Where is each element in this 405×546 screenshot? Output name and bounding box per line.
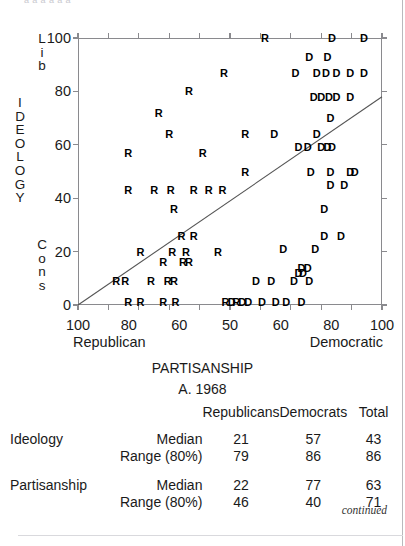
data-point-r: R bbox=[219, 185, 227, 196]
data-point-r: R bbox=[199, 147, 207, 158]
x-tick-label: 100 bbox=[370, 317, 394, 333]
data-point-d: D bbox=[270, 129, 278, 140]
data-point-d: D bbox=[320, 230, 328, 241]
data-point-d: D bbox=[310, 91, 318, 102]
data-point-d: D bbox=[313, 129, 321, 140]
y-tick bbox=[73, 91, 78, 92]
x-tick-top bbox=[290, 33, 291, 38]
y-tick-label: 100 bbox=[47, 30, 71, 46]
x-tick-label: 100 bbox=[66, 317, 90, 333]
data-point-d: D bbox=[279, 243, 287, 254]
page-bottom-rule bbox=[18, 535, 403, 536]
cell-democrats: 57 bbox=[280, 431, 348, 448]
y-tick-label: 60 bbox=[55, 137, 71, 153]
data-point-d: D bbox=[307, 166, 315, 177]
data-point-d: D bbox=[290, 275, 298, 286]
data-point-d: D bbox=[323, 51, 331, 62]
data-point-d: D bbox=[328, 33, 336, 44]
data-point-d: D bbox=[252, 275, 260, 286]
data-point-d: D bbox=[346, 91, 354, 102]
data-point-d: D bbox=[311, 243, 319, 254]
cell-total: 43 bbox=[347, 431, 400, 448]
x-tick bbox=[169, 305, 170, 310]
y-tick-label: 80 bbox=[55, 83, 71, 99]
data-point-r: R bbox=[165, 129, 173, 140]
data-point-r: R bbox=[124, 147, 132, 158]
data-point-d: D bbox=[304, 142, 312, 153]
y-tick-right bbox=[382, 91, 387, 92]
data-point-d: D bbox=[291, 67, 299, 78]
data-point-d: D bbox=[340, 179, 348, 190]
data-point-r: R bbox=[121, 275, 129, 286]
x-tick-label: 80 bbox=[121, 317, 137, 333]
data-point-r: R bbox=[214, 246, 222, 257]
data-point-r: R bbox=[167, 185, 175, 196]
y-axis-bottom-anchor: Cons bbox=[34, 238, 50, 292]
x-tick bbox=[77, 305, 78, 310]
data-point-d: D bbox=[325, 91, 333, 102]
row-group-label bbox=[10, 448, 112, 465]
y-tick-right bbox=[382, 304, 387, 305]
data-point-r: R bbox=[241, 166, 249, 177]
data-point-r: R bbox=[124, 297, 132, 308]
x-tick-top bbox=[321, 33, 322, 38]
data-point-d: D bbox=[295, 142, 303, 153]
data-point-d: D bbox=[360, 33, 368, 44]
header-blank-stat bbox=[112, 404, 202, 431]
data-point-r: R bbox=[261, 33, 269, 44]
data-point-r: R bbox=[159, 297, 167, 308]
summary-table: Republicans Democrats Total IdeologyMedi… bbox=[0, 404, 405, 511]
cell-total: 63 bbox=[347, 477, 400, 494]
y-tick-right bbox=[382, 144, 387, 145]
figure-caption-subtitle: A. 1968 bbox=[0, 381, 405, 397]
x-tick bbox=[290, 305, 291, 310]
x-tick-label: 50 bbox=[222, 317, 238, 333]
x-tick-label: 60 bbox=[273, 317, 289, 333]
data-point-d: D bbox=[272, 297, 280, 308]
y-tick-label: 0 bbox=[63, 297, 71, 313]
row-stat-label: Median bbox=[112, 477, 202, 494]
table-group-spacer bbox=[10, 465, 400, 477]
data-point-d: D bbox=[298, 297, 306, 308]
x-tick-label: 80 bbox=[323, 317, 339, 333]
table-row: Range (80%)798686 bbox=[10, 448, 400, 465]
data-point-r: R bbox=[185, 86, 193, 97]
x-tick-label: 60 bbox=[171, 317, 187, 333]
x-tick bbox=[321, 305, 322, 310]
x-tick bbox=[381, 305, 382, 310]
continued-note: continued bbox=[342, 504, 387, 516]
y-tick bbox=[73, 251, 78, 252]
data-point-d: D bbox=[228, 297, 236, 308]
scatter-plot: 020406080100 1008060506080100 RRRRRRRRRR… bbox=[0, 0, 405, 340]
x-tick-top bbox=[229, 33, 230, 38]
y-tick-right bbox=[382, 198, 387, 199]
table-row: IdeologyMedian215743 bbox=[10, 431, 400, 448]
figure-page: a a a a a a 020406080100 100806050608010… bbox=[0, 0, 405, 546]
y-tick bbox=[73, 198, 78, 199]
x-axis-left-anchor: Republican bbox=[73, 334, 146, 350]
row-group-label: Partisanship bbox=[10, 477, 112, 494]
data-point-r: R bbox=[190, 230, 198, 241]
data-point-d: D bbox=[282, 297, 290, 308]
x-tick bbox=[199, 305, 200, 310]
cell-republicans: 79 bbox=[202, 448, 279, 465]
data-point-d: D bbox=[326, 166, 334, 177]
data-point-r: R bbox=[241, 129, 249, 140]
header-total: Total bbox=[347, 404, 400, 431]
data-point-d: D bbox=[337, 230, 345, 241]
y-tick-right bbox=[382, 251, 387, 252]
data-point-r: R bbox=[170, 203, 178, 214]
data-point-d: D bbox=[326, 113, 334, 124]
data-point-r: R bbox=[168, 246, 176, 257]
data-point-r: R bbox=[136, 297, 144, 308]
cell-democrats: 40 bbox=[280, 494, 348, 511]
row-group-label: Ideology bbox=[10, 431, 112, 448]
data-point-r: R bbox=[155, 107, 163, 118]
x-axis-right-anchor: Democratic bbox=[310, 334, 383, 350]
data-point-d: D bbox=[351, 166, 359, 177]
x-tick-top bbox=[108, 33, 109, 38]
x-tick bbox=[351, 305, 352, 310]
row-stat-label: Range (80%) bbox=[112, 448, 202, 465]
y-tick-right bbox=[382, 37, 387, 38]
data-point-r: R bbox=[177, 230, 185, 241]
